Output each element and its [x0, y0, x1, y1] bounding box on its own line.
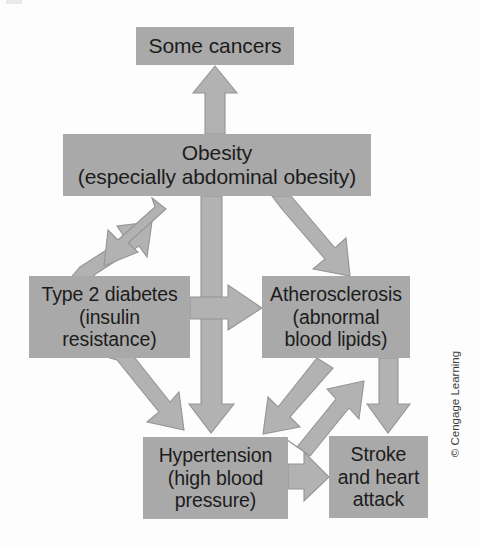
- obesity-health-risks-diagram: .arw { fill: #b2b2b2; stroke: #949494; s…: [0, 0, 481, 547]
- node-atherosclerosis-label: Atherosclerosis (abnormal blood lipids): [262, 283, 410, 351]
- node-some-cancers: Some cancers: [136, 27, 294, 65]
- node-hypertension-line-1: Hypertension: [159, 444, 273, 466]
- arrow-obesity-to-atherosclerosis: [272, 196, 350, 276]
- node-obesity-line-2: (especially abdominal obesity): [78, 165, 356, 188]
- node-obesity-line-1: Obesity: [182, 141, 253, 164]
- node-hypertension-label: Hypertension (high blood pressure): [143, 444, 288, 512]
- arrow-diabetes-to-hypertension: [110, 348, 184, 430]
- arrow-hypertension-to-stroke: [288, 452, 329, 501]
- node-type-2-diabetes-line-1: Type 2 diabetes: [41, 283, 177, 305]
- node-atherosclerosis-line-1: Atherosclerosis: [270, 283, 402, 305]
- node-type-2-diabetes-line-2: (insulin: [79, 306, 140, 328]
- node-atherosclerosis: Atherosclerosis (abnormal blood lipids): [262, 276, 410, 358]
- node-hypertension-line-3: pressure): [175, 489, 256, 511]
- node-stroke-line-2: and heart: [338, 466, 420, 488]
- node-type-2-diabetes-label: Type 2 diabetes (insulin resistance): [29, 283, 190, 351]
- node-atherosclerosis-line-3: blood lipids): [285, 328, 388, 350]
- node-some-cancers-label: Some cancers: [136, 34, 294, 58]
- node-stroke-line-3: attack: [353, 488, 404, 510]
- node-obesity-label: Obesity (especially abdominal obesity): [63, 141, 371, 190]
- node-atherosclerosis-line-2: (abnormal: [293, 306, 380, 328]
- node-stroke-line-1: Stroke: [351, 443, 407, 465]
- node-hypertension-line-2: (high blood: [168, 467, 263, 489]
- node-type-2-diabetes-line-3: resistance): [62, 328, 156, 350]
- node-stroke-and-heart-attack: Stroke and heart attack: [329, 436, 428, 518]
- node-obesity: Obesity (especially abdominal obesity): [63, 134, 371, 196]
- arrow-obesity-to-diabetes: [104, 198, 166, 266]
- node-hypertension: Hypertension (high blood pressure): [143, 437, 288, 519]
- copyright-notice: © Cengage Learning: [449, 344, 461, 464]
- node-stroke-and-heart-attack-label: Stroke and heart attack: [329, 443, 428, 511]
- arrow-atherosclerosis-to-stroke: [367, 358, 410, 433]
- scan-artifact: [6, 0, 22, 4]
- arrow-obesity-to-cancers: [193, 66, 237, 134]
- node-type-2-diabetes: Type 2 diabetes (insulin resistance): [29, 276, 190, 358]
